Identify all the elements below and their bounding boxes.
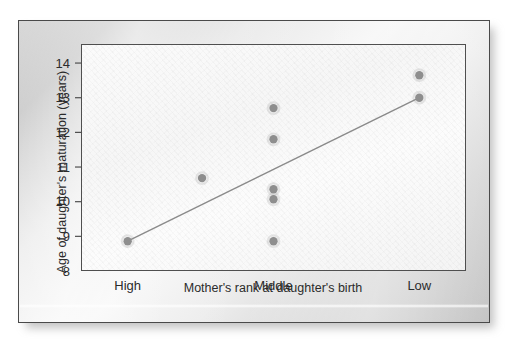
trend-line: [128, 98, 420, 241]
data-point: [269, 104, 277, 112]
y-axis-tick-marks: [75, 63, 81, 236]
decorative-panel: 891011121314 HighMiddleLow Age of daught…: [18, 20, 490, 323]
data-point: [415, 71, 423, 79]
data-point: [123, 237, 131, 245]
data-point: [415, 94, 423, 102]
y-axis-tick-label: 14: [56, 56, 70, 71]
scatter-plot: 891011121314 HighMiddleLow Age of daught…: [61, 24, 485, 296]
x-axis-category-label: Low: [407, 278, 431, 293]
data-point: [269, 195, 277, 203]
regression-line: [128, 98, 420, 241]
data-points: [122, 69, 425, 247]
plot-canvas: 891011121314 HighMiddleLow Age of daught…: [61, 24, 485, 296]
y-axis-label: Age of daughter's maturation (years): [55, 71, 69, 274]
figure-container: 891011121314 HighMiddleLow Age of daught…: [0, 0, 510, 342]
panel-highlight-band: [20, 304, 488, 308]
data-point: [269, 237, 277, 245]
data-point: [269, 185, 277, 193]
data-point: [269, 135, 277, 143]
x-axis-category-label: High: [114, 278, 141, 293]
x-axis-label: Mother's rank at daughter's birth: [184, 281, 363, 295]
data-point: [198, 174, 206, 182]
